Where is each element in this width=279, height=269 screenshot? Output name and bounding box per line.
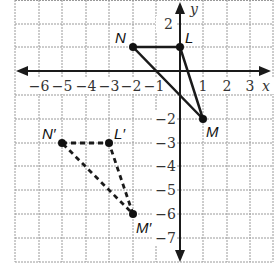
vertex-l-prime <box>105 139 113 147</box>
y-tick: −6 <box>155 206 176 222</box>
y-tick: 2 <box>164 16 173 32</box>
x-axis-right-arrow-icon <box>259 66 271 76</box>
x-axis-label: x <box>262 78 270 94</box>
vertex-m <box>199 115 207 123</box>
triangle-nlm-prime: N′ L′ M′ <box>42 125 152 236</box>
x-tick: −4 <box>76 78 97 94</box>
x-tick: −1 <box>144 78 165 94</box>
y-tick: −3 <box>155 135 176 151</box>
label-m-prime: M′ <box>136 219 152 236</box>
triangle-nlm-prime-edges <box>62 143 133 214</box>
y-axis-down-arrow-icon <box>175 250 185 262</box>
x-tick: −3 <box>99 78 120 94</box>
label-l-prime: L′ <box>114 125 126 142</box>
label-n: N <box>115 29 126 46</box>
y-tick: −4 <box>155 158 176 174</box>
label-n-prime: N′ <box>42 125 57 142</box>
vertex-l <box>176 43 184 51</box>
x-tick-labels: −6 −5 −4 −3 −2 −1 1 2 3 x <box>28 78 274 94</box>
x-tick: 2 <box>223 78 232 94</box>
vertex-m-prime <box>129 210 137 218</box>
y-tick: −5 <box>155 182 176 198</box>
y-tick: −7 <box>155 230 176 246</box>
x-tick: 1 <box>199 78 208 94</box>
label-l: L <box>185 29 193 46</box>
label-m: M <box>206 123 219 140</box>
y-tick: −2 <box>155 111 176 127</box>
x-tick: −5 <box>52 78 73 94</box>
x-tick: 3 <box>246 78 255 94</box>
vertex-n <box>129 43 137 51</box>
x-axis-left-arrow-icon <box>16 66 28 76</box>
vertex-n-prime <box>58 139 66 147</box>
y-axis-label: y <box>189 1 199 17</box>
coordinate-plane: −6 −5 −4 −3 −2 −1 1 2 3 x 2 −2 −3 −4 −5 … <box>0 0 279 269</box>
x-tick: −6 <box>29 78 50 94</box>
y-axis-up-arrow-icon <box>175 2 185 14</box>
x-tick: −2 <box>121 78 142 94</box>
